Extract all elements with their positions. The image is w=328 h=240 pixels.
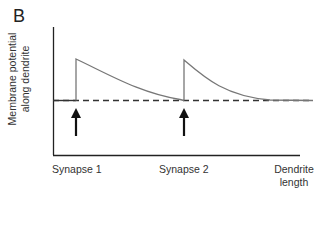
up-arrow-icon [179,108,189,136]
x-tick-synapse-1: Synapse 1 [52,163,102,176]
x-axis-label-line2: length [272,176,316,189]
potential-curve-2 [184,60,313,101]
up-arrow-icon [71,108,81,136]
x-axis-label-line1: Dendrite [272,163,316,176]
potential-curve-1 [76,59,184,101]
x-tick-synapse-2: Synapse 2 [159,163,209,176]
x-axis-label: Dendrite length [272,163,316,189]
